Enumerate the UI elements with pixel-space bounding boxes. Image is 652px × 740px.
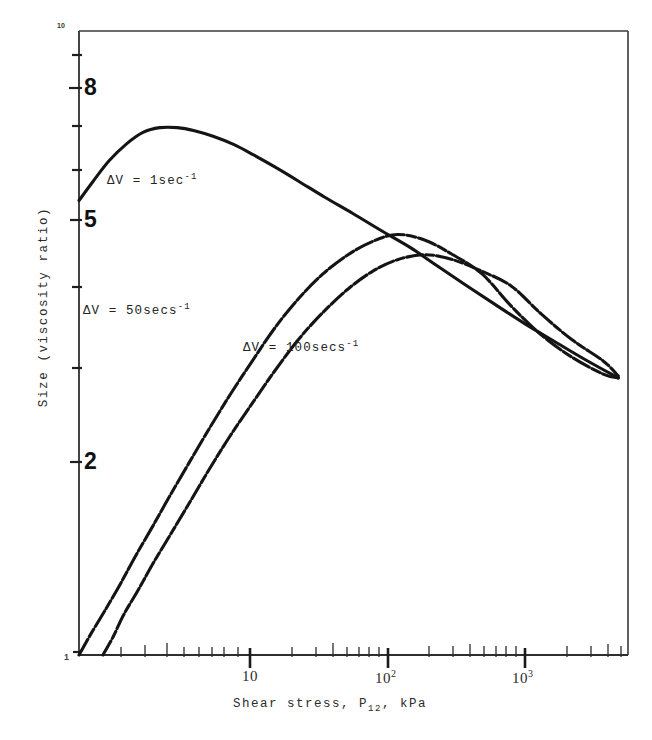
x-tick-label-10: 10 xyxy=(242,668,258,685)
curve-label-1sec: ΔV = 1sec-1 xyxy=(107,172,197,188)
y-tick-label-5: 5 xyxy=(84,206,97,233)
x-axis-title-subscript: 12 xyxy=(368,704,382,714)
y-tick-label-8: 8 xyxy=(84,74,97,101)
y-tick-label-2: 2 xyxy=(84,448,97,475)
x-axis-title: Shear stress, P12, kPa xyxy=(180,697,480,714)
curve-label-50secs: ΔV = 50secs-1 xyxy=(83,302,191,318)
curve-label-50secs-exponent: -1 xyxy=(178,302,191,312)
chart-canvas xyxy=(0,0,652,740)
x-tick-label-100: 102 xyxy=(375,668,397,687)
curve-label-50secs-text: ΔV = 50secs xyxy=(83,304,178,318)
y-tick-label-1: 1 xyxy=(64,652,69,662)
x-tick-100-exp: 2 xyxy=(391,668,397,679)
x-axis-title-suffix: , kPa xyxy=(382,697,427,711)
x-axis-title-prefix: Shear stress, P xyxy=(233,697,368,711)
curve-label-100secs-text: ΔV = 100secs xyxy=(243,341,346,355)
data-curves xyxy=(79,127,618,655)
x-tick-100-base: 10 xyxy=(375,670,391,686)
x-tick-1000-base: 10 xyxy=(512,670,528,686)
figure-root: Size (viscosity ratio) 10 8 5 2 1 10 102… xyxy=(0,0,652,740)
y-axis-ticks xyxy=(69,55,82,652)
x-tick-label-1000: 103 xyxy=(512,668,534,687)
curve-label-1sec-exponent: -1 xyxy=(184,172,197,182)
curve-label-100secs-exponent: -1 xyxy=(346,339,359,349)
y-axis-title: Size (viscosity ratio) xyxy=(37,177,51,437)
curve-label-1sec-text: ΔV = 1sec xyxy=(107,174,184,188)
x-tick-1000-exp: 3 xyxy=(528,668,534,679)
y-tick-label-10: 10 xyxy=(57,22,65,29)
curve-label-100secs: ΔV = 100secs-1 xyxy=(243,339,359,355)
curve-1 xyxy=(79,234,618,655)
